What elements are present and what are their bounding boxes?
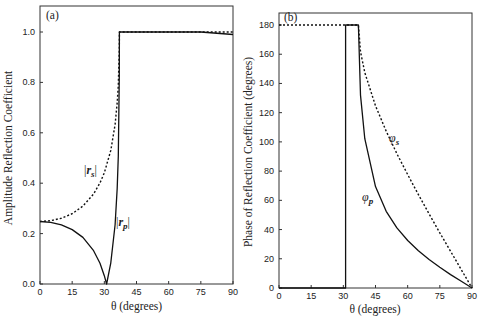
panel-b-phase: 020406080100120140160180 0153045607590 (… — [242, 11, 477, 316]
x-tick-label: 0 — [276, 291, 281, 301]
panel-a-amplitude: 0.00.20.40.60.81.0 0153045607590 (a) θ (… — [2, 6, 238, 313]
x-tick-label: 15 — [306, 291, 316, 301]
x-tick-label: 45 — [131, 287, 141, 297]
x-tick-label: 30 — [338, 291, 348, 301]
y-axis-label-b: Phase of Reflection Coefficient (degrees… — [242, 57, 255, 247]
series-rs — [40, 32, 233, 222]
panel-label-b: (b) — [284, 11, 298, 24]
x-tick-label: 60 — [164, 287, 174, 297]
y-axis-label-a: Amplitude Reflection Coefficient — [2, 70, 15, 225]
y-tick-label: 0.2 — [22, 229, 35, 239]
x-tick-label: 0 — [37, 287, 42, 297]
y-tick-label: 0.8 — [22, 77, 35, 87]
svg-text:|rp|: |rp| — [116, 215, 130, 231]
y-tick-label: 160 — [259, 49, 274, 59]
y-tick-label: 80 — [264, 166, 274, 176]
figure: 0.00.20.40.60.81.0 0153045607590 (a) θ (… — [0, 0, 478, 319]
y-tick-label: 20 — [264, 254, 274, 264]
y-tick-label: 120 — [259, 108, 274, 118]
y-tick-label: 100 — [259, 137, 274, 147]
y-tick-label: 0.6 — [22, 128, 35, 138]
y-tick-label: 40 — [264, 225, 274, 235]
curve-label-phi-p: φp — [362, 190, 374, 206]
series-p — [279, 25, 472, 288]
series-rp — [40, 32, 233, 284]
y-tick-label: 0.4 — [22, 178, 35, 188]
curve-label-phi-s: φs — [389, 131, 400, 147]
curve-label-rs: |rs| — [84, 163, 97, 179]
x-axis-label-b: θ (degrees) — [349, 303, 400, 316]
svg-text:φs: φs — [389, 131, 400, 147]
x-axis-label-a: θ (degrees) — [111, 300, 162, 313]
curves-b — [279, 25, 472, 288]
svg-text:φp: φp — [362, 190, 374, 206]
x-tick-label: 60 — [403, 291, 413, 301]
x-tick-label: 30 — [99, 287, 109, 297]
curves-a — [40, 32, 233, 284]
x-tick-label: 15 — [67, 287, 77, 297]
plot-frame-b — [279, 13, 472, 288]
y-tick-label: 60 — [264, 195, 274, 205]
x-tick-label: 90 — [467, 291, 477, 301]
svg-text:|rs|: |rs| — [84, 163, 97, 179]
plot-frame-a — [40, 6, 233, 284]
y-tick-label: 180 — [259, 20, 274, 30]
x-tick-label: 75 — [435, 291, 445, 301]
x-tick-label: 90 — [228, 287, 238, 297]
y-tick-label: 0 — [269, 283, 274, 293]
x-ticks-a: 0153045607590 — [37, 281, 238, 297]
series-s — [279, 25, 472, 288]
x-tick-label: 45 — [370, 291, 380, 301]
y-tick-label: 140 — [259, 78, 274, 88]
curve-label-rp: |rp| — [116, 215, 130, 231]
y-tick-label: 1.0 — [22, 27, 35, 37]
panel-label-a: (a) — [46, 9, 59, 22]
x-tick-label: 75 — [196, 287, 206, 297]
y-tick-label: 0.0 — [22, 279, 35, 289]
